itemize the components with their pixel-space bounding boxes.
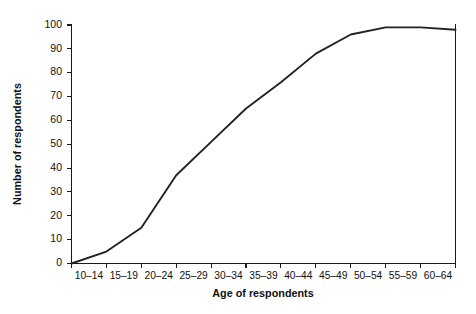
x-tick-label: 35–39 (249, 270, 278, 281)
y-tick-label: 80 (50, 65, 62, 77)
chart-canvas: 0 10 20 30 40 50 60 70 80 90 100 (0, 0, 476, 314)
x-tick-label: 50–54 (354, 270, 383, 281)
y-tick-label: 60 (50, 113, 62, 125)
x-tick-label: 45–49 (319, 270, 348, 281)
y-tick-label: 100 (44, 18, 62, 30)
y-tick-label: 20 (50, 209, 62, 221)
x-tick-label: 55–59 (389, 270, 418, 281)
y-tick-label: 10 (50, 232, 62, 244)
x-tick-label: 30–34 (214, 270, 243, 281)
x-axis-title: Age of respondents (212, 287, 313, 299)
y-tick-label: 50 (50, 137, 62, 149)
cumulative-frequency-chart: 0 10 20 30 40 50 60 70 80 90 100 (0, 0, 476, 314)
x-tick-label: 20–24 (145, 270, 174, 281)
y-tick-label: 30 (50, 185, 62, 197)
x-tick-label: 10–14 (75, 270, 104, 281)
y-tick-label: 0 (56, 256, 62, 268)
y-tick-label: 40 (50, 161, 62, 173)
y-tick-label: 70 (50, 89, 62, 101)
y-axis-title: Number of respondents (11, 83, 23, 205)
x-tick-label: 40–44 (284, 270, 313, 281)
y-tick-label: 90 (50, 42, 62, 54)
x-tick-label: 15–19 (110, 270, 139, 281)
x-tick-label: 60–64 (424, 270, 453, 281)
x-axis-tick-labels: 10–14 15–19 20–24 25–29 30–34 35–39 40–4… (75, 270, 453, 281)
x-tick-label: 25–29 (179, 270, 208, 281)
